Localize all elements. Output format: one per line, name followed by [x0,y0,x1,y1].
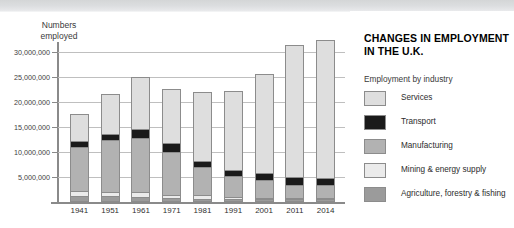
legend-item-label: Manufacturing [401,141,453,150]
page-title-line-2: IN THE U.K. [364,45,423,57]
bar-segment-services [132,78,149,129]
bar-segment-agriculture [163,198,180,201]
x-axis-label-1961: 1961 [125,206,156,215]
legend-item-label: Mining & energy supply [401,165,486,174]
bar-2014 [316,40,335,203]
y-axis-tick-label: 20,000,000 [0,97,50,106]
legend-item[interactable]: Services [364,89,514,113]
legend-item[interactable]: Mining & energy supply [364,161,514,185]
bar-segment-services [225,92,242,170]
bar-segment-agriculture [194,199,211,201]
y-axis-tick-label: 5,000,000 [0,172,50,181]
legend-swatch [364,187,386,202]
chart-area: Numbers employed 5,000,00010,000,00015,0… [0,11,350,228]
x-axis-label-1971: 1971 [156,206,187,215]
x-axis-label-2001: 2001 [249,206,280,215]
legend-title: Employment by industry [364,74,453,84]
bar-segment-manufacturing [132,138,149,192]
legend-item[interactable]: Manufacturing [364,137,514,161]
x-axis-label-1991: 1991 [218,206,249,215]
page-title-line-1: CHANGES IN EMPLOYMENT [364,32,509,44]
bar-segment-manufacturing [163,152,180,195]
legend-item-label: Services [401,93,432,102]
bar-segment-manufacturing [225,176,242,197]
bar-segment-manufacturing [194,167,211,195]
legend-item[interactable]: Transport [364,113,514,137]
bar-segment-agriculture [132,197,149,201]
x-axis-label-1951: 1951 [95,206,126,215]
y-axis-tick-label: 15,000,000 [0,122,50,131]
bar-1971 [162,89,181,202]
chart-page: Numbers employed 5,000,00010,000,00015,0… [0,0,514,228]
bar-segment-transport [286,177,303,184]
legend-swatch [364,91,386,106]
bar-1991 [224,91,243,202]
bar-segment-transport [317,178,334,185]
x-axis-label-1981: 1981 [187,206,218,215]
bar-segment-agriculture [256,199,273,201]
x-axis-label-2014: 2014 [310,206,341,215]
y-axis-tick-label: 25,000,000 [0,72,50,81]
bar-segment-agriculture [286,199,303,201]
x-axis-label-2011: 2011 [279,206,310,215]
bar-segment-services [163,90,180,143]
bar-segment-manufacturing [286,185,303,198]
bar-segment-manufacturing [102,140,119,192]
page-title: CHANGES IN EMPLOYMENTIN THE U.K. [364,32,512,57]
bar-segment-manufacturing [317,185,334,198]
legend-swatch [364,163,386,178]
bar-segment-services [102,95,119,134]
legend-item-label: Transport [401,117,436,126]
bar-segment-agriculture [71,196,88,201]
bar-segment-transport [163,143,180,152]
bar-1951 [101,94,120,202]
bar-segment-agriculture [317,199,334,201]
bar-segment-manufacturing [256,180,273,198]
x-axis-label-1941: 1941 [64,206,95,215]
bar-segment-services [71,115,88,141]
bar-1941 [70,114,89,202]
bar-segment-manufacturing [71,147,88,191]
bar-segment-services [256,75,273,173]
top-banner-strip [0,0,514,11]
bar-segment-services [286,46,303,177]
x-axis-line [51,202,345,204]
bar-segment-transport [256,173,273,180]
legend: ServicesTransportManufacturingMining & e… [364,89,514,209]
info-panel: CHANGES IN EMPLOYMENTIN THE U.K. Employm… [350,11,514,228]
plot-region [58,44,345,202]
y-axis-tick-label: 30,000,000 [0,47,50,56]
legend-item-label: Agriculture, forestry & fishing [401,189,506,198]
bar-segment-transport [132,129,149,138]
bar-2011 [285,45,304,202]
bar-segment-services [317,41,334,178]
legend-swatch [364,115,386,130]
legend-swatch [364,139,386,154]
bar-segment-agriculture [102,196,119,201]
bar-2001 [255,74,274,202]
bar-segment-services [194,93,211,160]
bar-1961 [131,77,150,202]
legend-item[interactable]: Agriculture, forestry & fishing [364,185,514,209]
bar-segment-agriculture [225,199,242,201]
y-axis-tick-label: 10,000,000 [0,147,50,156]
bar-1981 [193,92,212,202]
y-axis-tick-labels: 5,000,00010,000,00015,000,00020,000,0002… [0,11,50,228]
